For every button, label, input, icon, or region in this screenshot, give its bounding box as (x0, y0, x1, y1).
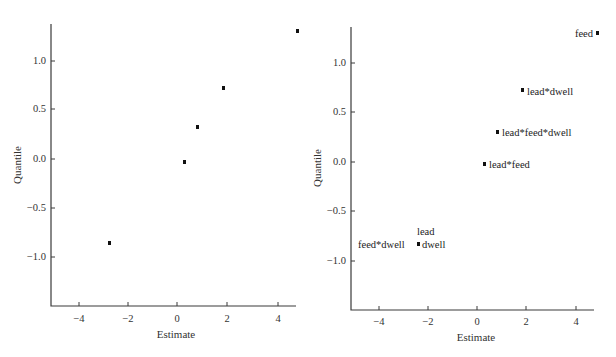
data-point (222, 86, 225, 90)
left-x-tick-labels: −4 −2 0 2 4 (73, 313, 281, 324)
x-tick-label: 4 (573, 316, 579, 327)
x-tick-label: 4 (275, 313, 281, 324)
data-point (496, 130, 499, 134)
label-feed: feed (575, 28, 594, 39)
right-y-axis-label: Quantile (311, 149, 323, 187)
point-labels: feed lead*dwell lead*feed*dwell lead*fee… (358, 28, 594, 250)
y-tick-label: 0.5 (33, 103, 46, 114)
x-tick-label: −2 (422, 316, 433, 327)
y-tick-label: 1.0 (33, 55, 46, 66)
x-tick-label: −2 (122, 313, 133, 324)
data-point (296, 29, 299, 33)
x-tick-label: 0 (174, 313, 179, 324)
y-tick-label: 0.0 (33, 153, 46, 164)
right-x-axis-label: Estimate (457, 331, 496, 343)
label-dwell: dwell (422, 239, 445, 250)
data-point (196, 125, 199, 129)
y-tick-label: −0.5 (27, 202, 46, 213)
data-point (483, 162, 486, 166)
data-point (183, 160, 186, 164)
right-data-points (417, 31, 599, 246)
right-plot: −4 −2 0 2 4 1.0 0.5 0.0 −0.5 −1.0 Estima… (311, 27, 599, 343)
y-tick-label: 0.0 (333, 156, 346, 167)
label-lead-dwell: lead*dwell (527, 86, 573, 97)
left-plot: −4 −2 0 2 4 1.0 0.5 0.0 −0.5 −1.0 Estima… (11, 24, 299, 340)
right-y-tick-labels: 1.0 0.5 0.0 −0.5 −1.0 (327, 57, 346, 266)
x-tick-label: 2 (224, 313, 229, 324)
label-lead-feed-dwell: lead*feed*dwell (502, 127, 571, 138)
x-tick-label: −4 (73, 313, 85, 324)
label-feed-dwell: feed*dwell (358, 239, 405, 250)
figure: −4 −2 0 2 4 1.0 0.5 0.0 −0.5 −1.0 Estima… (0, 0, 616, 357)
label-lead-feed: lead*feed (489, 159, 531, 170)
right-x-tick-labels: −4 −2 0 2 4 (373, 316, 579, 327)
left-x-axis-label: Estimate (157, 328, 196, 340)
label-lead: lead (417, 226, 435, 237)
x-tick-label: 0 (474, 316, 479, 327)
data-point (417, 242, 420, 246)
x-tick-label: 2 (523, 316, 528, 327)
left-data-points (108, 29, 299, 245)
left-y-tick-labels: 1.0 0.5 0.0 −0.5 −1.0 (27, 55, 46, 262)
data-point (521, 88, 524, 92)
data-point (108, 241, 111, 245)
left-axes (51, 24, 296, 306)
y-tick-label: −1.0 (327, 255, 346, 266)
y-tick-label: −0.5 (327, 205, 346, 216)
y-tick-label: 1.0 (333, 57, 346, 68)
left-y-axis-label: Quantile (11, 146, 23, 184)
y-tick-label: −1.0 (27, 251, 46, 262)
x-tick-label: −4 (373, 316, 385, 327)
right-axes (351, 27, 594, 310)
data-point (596, 31, 599, 35)
y-tick-label: 0.5 (333, 106, 346, 117)
